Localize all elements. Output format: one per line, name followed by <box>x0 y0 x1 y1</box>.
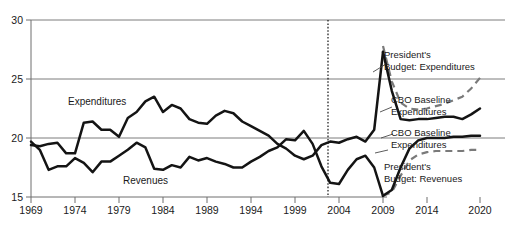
legend-pres-exp-line2: Budget: Expenditures <box>384 61 475 72</box>
legend-pres-rev-line1: President's <box>384 161 431 172</box>
series-label-revenues: Revenues <box>123 175 168 186</box>
x-tick-label-1979: 1979 <box>107 204 131 216</box>
x-tick-label-1994: 1994 <box>239 204 263 216</box>
x-tick-label-2020: 2020 <box>468 204 492 216</box>
legend-cbo-exp-line1: CBO Baseline <box>391 94 451 105</box>
y-tick-label-25: 25 <box>11 73 23 85</box>
x-tick-label-1969: 1969 <box>19 204 43 216</box>
legend-cbo-rev-line2: Expenditures <box>391 139 447 150</box>
legend-pres-exp-line1: President's <box>384 49 431 60</box>
x-tick-label-1989: 1989 <box>195 204 219 216</box>
legend-cbo-baseline-revenues: CBO Baseline Expenditures <box>391 127 451 150</box>
x-tick-label-2004: 2004 <box>327 204 351 216</box>
series-label-expenditures: Expenditures <box>68 96 126 107</box>
x-tick-label-1999: 1999 <box>283 204 307 216</box>
budget-outlook-line-chart: 30 25 20 15 1969 1974 1979 1984 1989 <box>0 0 505 236</box>
x-tick-label-1984: 1984 <box>151 204 175 216</box>
y-tick-label-30: 30 <box>11 14 23 26</box>
x-tick-label-1974: 1974 <box>63 204 87 216</box>
legend-cbo-baseline-expenditures: CBO Baseline Expenditures <box>391 94 451 117</box>
chart-container: 30 25 20 15 1969 1974 1979 1984 1989 <box>0 0 505 236</box>
legend-cbo-rev-line1: CBO Baseline <box>391 127 451 138</box>
y-tick-label-15: 15 <box>11 191 23 203</box>
x-tick-label-2014: 2014 <box>415 204 439 216</box>
legend-pres-rev-line2: Budget: Revenues <box>384 173 462 184</box>
y-tick-label-20: 20 <box>11 132 23 144</box>
x-tick-label-2009: 2009 <box>371 204 395 216</box>
legend-cbo-exp-line2: Expenditures <box>391 106 447 117</box>
